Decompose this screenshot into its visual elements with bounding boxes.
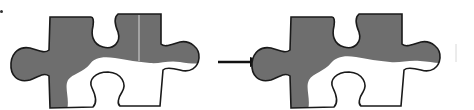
puzzle-piece-after	[241, 0, 456, 110]
shaded-region-before	[0, 0, 210, 110]
puzzle-piece-before	[0, 0, 210, 110]
shaded-region-after	[241, 0, 451, 110]
figure	[0, 0, 474, 110]
puzzle-diagram	[0, 0, 474, 110]
